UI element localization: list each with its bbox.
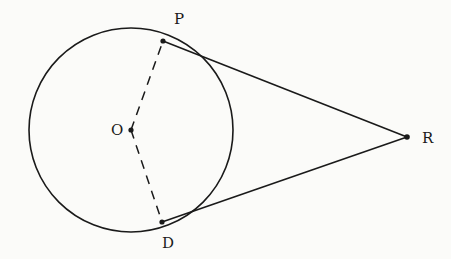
label-p: P <box>174 10 184 28</box>
radius-od-dashed <box>131 130 162 222</box>
geometry-diagram: O P D R <box>0 0 451 259</box>
tangent-segment-dr <box>162 137 407 222</box>
tangent-segment-pr <box>163 41 407 137</box>
label-o: O <box>111 121 123 139</box>
radius-op-dashed <box>131 41 163 130</box>
point-r <box>404 134 410 140</box>
point-o <box>128 127 133 132</box>
point-d <box>159 219 164 224</box>
point-p <box>160 38 165 43</box>
label-d: D <box>162 234 174 252</box>
label-r: R <box>422 129 434 147</box>
